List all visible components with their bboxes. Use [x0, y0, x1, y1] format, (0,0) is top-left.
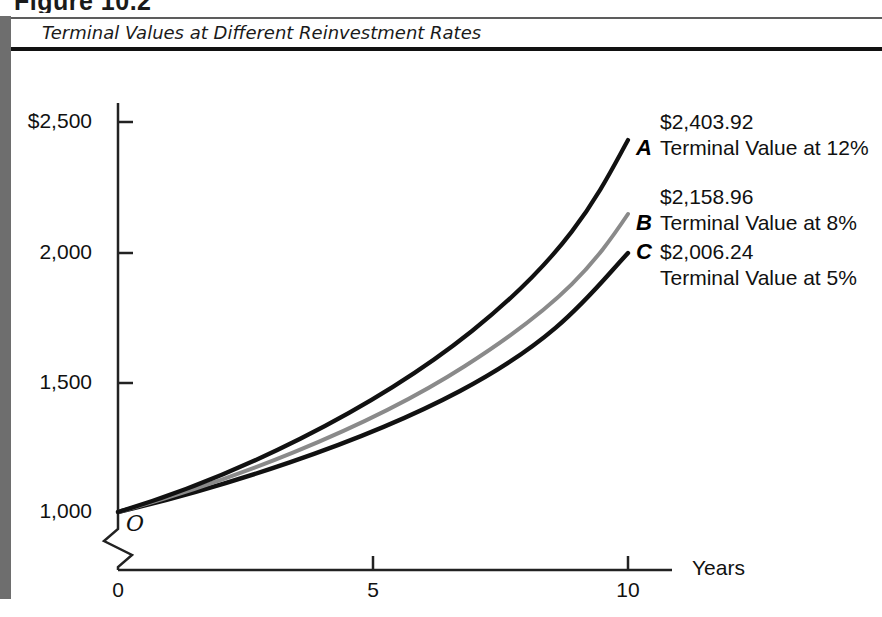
series-letter-a: A: [636, 135, 652, 161]
x-tick-label-10: 10: [598, 578, 658, 602]
y-tick-label-1000: 1,000: [0, 499, 92, 523]
y-tick-label-2500: $2,500: [0, 109, 92, 133]
x-axis-title: Years: [692, 556, 745, 580]
curve-c-5-percent: [118, 253, 628, 512]
annotation-c-description: Terminal Value at 5%: [660, 265, 857, 291]
x-axis-ticks: [373, 556, 628, 570]
annotation-a-value: $2,403.92: [660, 109, 869, 135]
figure-container: Figure 10.2 Terminal Values at Different…: [0, 0, 882, 617]
annotation-a-description: Terminal Value at 12%: [660, 135, 869, 161]
y-tick-label-1500: 1,500: [0, 370, 92, 394]
curve-a-12-percent: [118, 140, 628, 512]
y-axis-ticks: [118, 122, 133, 383]
x-tick-label-0: 0: [88, 578, 148, 602]
origin-label: O: [126, 511, 144, 536]
figure-title: Terminal Values at Different Reinvestmen…: [42, 21, 481, 45]
title-rule-top: [11, 17, 882, 19]
y-tick-label-2000: 2,000: [0, 240, 92, 264]
annotation-b-value: $2,158.96: [660, 184, 857, 210]
figure-number-label: Figure 10.2: [14, 0, 152, 13]
x-tick-label-5: 5: [343, 578, 403, 602]
annotation-b-description: Terminal Value at 8%: [660, 210, 857, 236]
series-letter-b: B: [636, 210, 652, 236]
annotation-c-value: $2,006.24: [660, 239, 857, 265]
plot-area: $2,500 2,000 1,500 1,000 O 0 5 10 Years …: [0, 51, 882, 617]
series-letter-c: C: [636, 239, 652, 265]
